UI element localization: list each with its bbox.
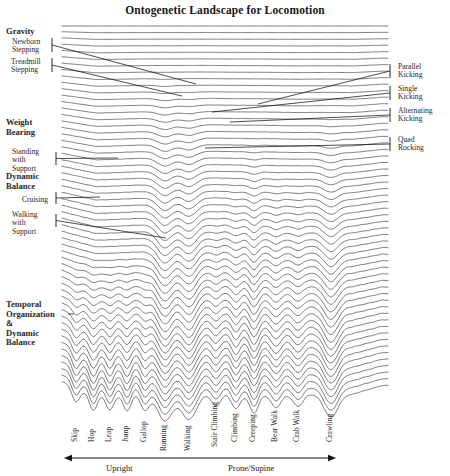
ridgeline-row [62, 134, 388, 144]
right-label-parallel-kicking: Parallel Kicking [398, 63, 422, 80]
x-tick-crab-walk: Crab Walk [292, 410, 301, 442]
x-tick-walking: Walking [183, 425, 192, 451]
left-label-weight-bearing: Weight Bearing [6, 118, 35, 137]
ridgeline-row [62, 121, 388, 130]
ridgeline-row [62, 290, 388, 324]
leader-line [56, 158, 118, 159]
ridgeline-row [62, 69, 388, 72]
left-label-newborn-stepping: Newborn Stepping [12, 38, 40, 55]
ridgeline-row [62, 63, 388, 66]
x-tick-skip: Skip [70, 428, 79, 442]
ridgeline-row [62, 212, 388, 233]
ridgeline-row [62, 114, 388, 122]
ridgeline-row [62, 82, 388, 86]
landscape-plot [0, 0, 450, 476]
leader-line [56, 221, 166, 239]
left-label-gravity: Gravity [6, 27, 35, 37]
left-label-dynamic-balance: Dynamic Balance [6, 172, 39, 191]
right-label-single-kicking: Single Kicking [398, 85, 422, 102]
ridgeline-row [62, 153, 388, 166]
ridgeline-row [62, 270, 388, 301]
ridgeline-row [62, 166, 388, 181]
ridgeline-row [62, 205, 388, 225]
left-label-cruising: Cruising [22, 196, 48, 204]
ridgeline-row [62, 323, 388, 360]
leader-line [52, 65, 182, 96]
axis-arrowhead [328, 455, 336, 461]
x-tick-hop: Hop [87, 429, 96, 442]
axis-region-upright: Upright [106, 463, 133, 473]
ontogenetic-landscape-figure: Ontogenetic Landscape for Locomotion Gra… [0, 0, 450, 476]
ridgeline-row [62, 225, 388, 248]
ridgeline-row [62, 140, 388, 151]
right-label-quad-rocking: Quad Rocking [398, 136, 424, 153]
x-tick-bear-walk: Bear Walk [270, 410, 279, 442]
ridgeline-row [62, 108, 388, 115]
axis-region-prone-supine: Prone/Supine [228, 463, 274, 473]
ridgeline-row [62, 50, 388, 52]
x-tick-jump: Jump [121, 426, 130, 442]
left-label-temporal-organization: Temporal Organization & Dynamic Balance [6, 300, 55, 348]
ridgeline-row [62, 147, 388, 159]
axis-arrowhead [64, 455, 72, 461]
x-tick-stair-climbing: Stair Climbing [210, 402, 219, 447]
axis-double-arrow [64, 455, 336, 461]
ridgeline-row [62, 89, 388, 94]
ridgeline-row [62, 32, 388, 33]
ridgeline-row [62, 375, 388, 414]
left-label-walking-with-support: Walking with Support [12, 211, 38, 236]
ridgeline-row [62, 356, 388, 394]
ridgeline-row [62, 38, 388, 39]
ridgeline-row [62, 186, 388, 203]
ridgeline-row [62, 192, 388, 210]
leader-line [52, 45, 196, 84]
x-tick-climbing: Climbing [230, 413, 239, 442]
x-tick-crawling: Crawling [325, 414, 334, 442]
leader-line [56, 197, 100, 198]
ridgeline-row [62, 342, 388, 380]
leader-line [205, 144, 390, 148]
ridgeline-row [62, 369, 388, 408]
ridgeline-row [62, 44, 388, 46]
left-label-treadmill-stepping: Treadmill Stepping [11, 58, 41, 75]
ridgeline-curves [62, 26, 388, 421]
x-tick-running: Running [159, 425, 168, 451]
ridgeline-row [62, 95, 388, 101]
left-label-standing-with-support: Standing with Support [12, 148, 39, 173]
x-tick-creeping: Creeping [248, 414, 257, 442]
ridgeline-row [62, 57, 388, 60]
leader-line [212, 93, 390, 112]
right-label-alternating-kicking: Alternating Kicking [398, 107, 433, 124]
ridgeline-row [62, 199, 388, 218]
ridgeline-row [62, 231, 388, 255]
x-tick-leap: Leap [104, 427, 113, 442]
ridgeline-row [62, 127, 388, 136]
ridgeline-row [62, 102, 388, 108]
x-tick-gallop: Gallop [139, 421, 148, 442]
ridgeline-row [62, 382, 388, 421]
